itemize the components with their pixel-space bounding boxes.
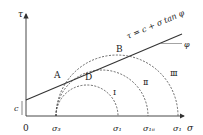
mohr-circle-I xyxy=(56,85,118,116)
sigma-axis-label: σ xyxy=(187,123,194,133)
tau-axis-label: τ xyxy=(18,9,24,19)
angle-label: φ xyxy=(184,40,190,49)
mohr-coulomb-diagram: τ σ 0 φ τ = c + σ tan φ c A B D Ⅰ Ⅱ Ⅲ σ₃… xyxy=(0,0,203,135)
sigma1-II-label: σ₁ᵢᵢ xyxy=(143,124,155,133)
sigma3-label: σ₃ xyxy=(52,124,61,133)
cohesion-label: c xyxy=(14,104,19,113)
sigma1-I-label: σ₁ xyxy=(113,124,122,133)
point-B-label: B xyxy=(116,44,123,54)
point-A-label: A xyxy=(53,70,61,80)
circle-III-label: Ⅲ xyxy=(170,69,178,78)
point-D-label: D xyxy=(85,72,92,82)
origin-label: 0 xyxy=(23,123,29,133)
circle-I-label: Ⅰ xyxy=(113,88,116,97)
sigma1-III-label: σ₁ xyxy=(173,124,182,133)
circle-II-label: Ⅱ xyxy=(143,78,148,87)
